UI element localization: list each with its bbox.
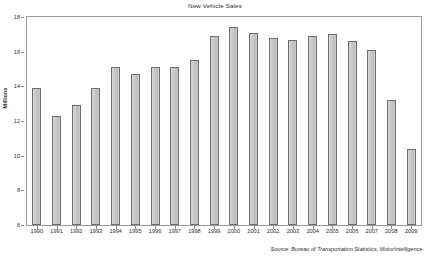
bar-slot bbox=[210, 17, 219, 225]
x-tick-mark bbox=[352, 226, 353, 229]
y-tick-label: 10 bbox=[14, 153, 20, 159]
x-tick-mark bbox=[214, 226, 215, 229]
bar-2008 bbox=[387, 100, 396, 225]
x-tick-mark bbox=[96, 226, 97, 229]
bar-slot bbox=[170, 17, 179, 225]
bar-1999 bbox=[210, 36, 219, 225]
bar-slot bbox=[151, 17, 160, 225]
y-tick-mark bbox=[21, 121, 24, 122]
x-tick-mark bbox=[254, 226, 255, 229]
x-tick-mark bbox=[234, 226, 235, 229]
x-axis-tick-labels: 1990199119921993199419951996199719981999… bbox=[26, 228, 422, 240]
x-tick-mark bbox=[76, 226, 77, 229]
bar-1998 bbox=[190, 60, 199, 225]
bar-slot bbox=[249, 17, 258, 225]
x-tick-mark bbox=[391, 226, 392, 229]
bar-slot bbox=[407, 17, 416, 225]
bar-slot bbox=[190, 17, 199, 225]
bar-2002 bbox=[269, 38, 278, 225]
bar-1994 bbox=[111, 67, 120, 225]
bar-2006 bbox=[348, 41, 357, 225]
y-tick-label: 16 bbox=[14, 49, 20, 55]
bar-slot bbox=[111, 17, 120, 225]
y-tick-label: 6 bbox=[17, 222, 20, 228]
y-axis-tick-labels: 181614121086 bbox=[0, 16, 24, 226]
x-tick-mark bbox=[332, 226, 333, 229]
y-tick-mark bbox=[21, 17, 24, 18]
bar-2000 bbox=[229, 27, 238, 225]
bar-slot bbox=[229, 17, 238, 225]
bar-2003 bbox=[288, 40, 297, 225]
bar-slot bbox=[348, 17, 357, 225]
bar-1996 bbox=[151, 67, 160, 225]
bar-slot bbox=[328, 17, 337, 225]
chart-figure: New Vehicle Sales Millions 181614121086 … bbox=[0, 0, 430, 262]
y-tick-label: 18 bbox=[14, 14, 20, 20]
bar-slot bbox=[308, 17, 317, 225]
bar-2009 bbox=[407, 149, 416, 225]
y-tick-mark bbox=[21, 225, 24, 226]
x-tick-mark bbox=[57, 226, 58, 229]
x-tick-mark bbox=[293, 226, 294, 229]
y-tick-label: 14 bbox=[14, 83, 20, 89]
x-tick-mark bbox=[273, 226, 274, 229]
bar-1997 bbox=[170, 67, 179, 225]
bar-1992 bbox=[72, 105, 81, 225]
x-tick-mark bbox=[411, 226, 412, 229]
x-tick-mark bbox=[313, 226, 314, 229]
bar-slot bbox=[131, 17, 140, 225]
x-tick-mark bbox=[194, 226, 195, 229]
x-tick-mark bbox=[37, 226, 38, 229]
source-note: Source: Bureau of Transportation Statist… bbox=[271, 246, 425, 252]
bar-slot bbox=[387, 17, 396, 225]
bar-2004 bbox=[308, 36, 317, 225]
bar-1990 bbox=[32, 88, 41, 225]
bar-slot bbox=[367, 17, 376, 225]
bar-2005 bbox=[328, 34, 337, 225]
chart-title: New Vehicle Sales bbox=[0, 2, 430, 9]
y-tick-label: 8 bbox=[17, 187, 20, 193]
x-tick-mark bbox=[175, 226, 176, 229]
bar-slot bbox=[288, 17, 297, 225]
bar-1991 bbox=[52, 116, 61, 225]
y-tick-label: 12 bbox=[14, 118, 20, 124]
bar-1993 bbox=[91, 88, 100, 225]
x-tick-mark bbox=[155, 226, 156, 229]
y-tick-mark bbox=[21, 156, 24, 157]
y-tick-mark bbox=[21, 86, 24, 87]
bar-2007 bbox=[367, 50, 376, 225]
plot-frame bbox=[26, 16, 422, 226]
y-tick-mark bbox=[21, 52, 24, 53]
bar-2001 bbox=[249, 33, 258, 225]
bar-slot bbox=[52, 17, 61, 225]
bar-1995 bbox=[131, 74, 140, 225]
x-tick-mark bbox=[372, 226, 373, 229]
bar-slot bbox=[32, 17, 41, 225]
x-tick-mark bbox=[135, 226, 136, 229]
bar-slot bbox=[269, 17, 278, 225]
plot-area bbox=[27, 17, 421, 225]
y-tick-mark bbox=[21, 190, 24, 191]
bar-slot bbox=[72, 17, 81, 225]
x-tick-mark bbox=[116, 226, 117, 229]
bar-slot bbox=[91, 17, 100, 225]
